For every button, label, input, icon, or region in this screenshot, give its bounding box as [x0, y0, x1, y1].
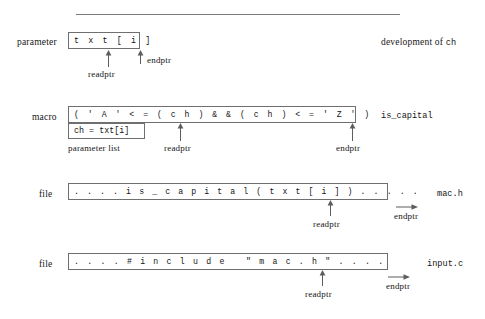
input-c-caption-mono: input.c — [427, 259, 463, 269]
row-label-file-mac-h: file — [39, 189, 52, 199]
parameter-endptr-arrow — [136, 50, 145, 64]
row-label-file-input-c: file — [39, 259, 52, 269]
parameter-readptr-arrow — [104, 50, 113, 67]
top-horizontal-rule — [76, 14, 400, 15]
macro-endptr-label: endptr — [336, 143, 360, 153]
mac-h-endptr-arrow — [396, 203, 418, 211]
macro-endptr-arrow — [348, 123, 357, 141]
input-c-readptr-label: readptr — [305, 289, 332, 299]
parameter-code-box: t x t [ i ] — [68, 32, 140, 49]
input-c-code-box: . . . . # i n c l u d e " m a c . h " . … — [68, 253, 388, 270]
mac-h-caption-mono: mac.h — [437, 189, 463, 199]
macro-expansion-diagram: parameter t x t [ i ] readptr endptr dev… — [0, 0, 485, 319]
mac-h-readptr-arrow — [326, 200, 335, 216]
parameter-caption: development of ch — [381, 37, 456, 48]
mac-h-readptr-label: readptr — [313, 219, 340, 229]
parameter-endptr-label: endptr — [147, 55, 171, 65]
row-label-parameter: parameter — [17, 37, 57, 47]
parameter-caption-text: development of — [381, 37, 446, 47]
macro-parameter-list-box: ch = txt[i] — [68, 123, 145, 139]
parameter-caption-mono: ch — [446, 38, 456, 48]
macro-parameter-list-label: parameter list — [68, 143, 120, 153]
input-c-readptr-arrow — [318, 270, 327, 286]
input-c-endptr-arrow — [388, 273, 410, 281]
input-c-endptr-label: endptr — [386, 281, 410, 291]
macro-readptr-label: readptr — [164, 143, 191, 153]
macro-expansion-code-box: ( ' A ' < = ( c h ) & & ( c h ) < = ' Z … — [68, 106, 356, 123]
mac-h-endptr-label: endptr — [394, 211, 418, 221]
macro-caption-mono: is_capital — [381, 111, 433, 121]
mac-h-code-box: . . . . i s _ c a p i t a l ( t x t [ i … — [68, 183, 388, 200]
parameter-readptr-label: readptr — [88, 69, 115, 79]
row-label-macro: macro — [32, 112, 57, 122]
macro-readptr-arrow — [176, 123, 185, 141]
